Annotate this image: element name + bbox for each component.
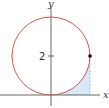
circle-diagram: y x 2 — [0, 0, 109, 108]
x-axis-label: x — [103, 89, 109, 100]
point-marker — [88, 54, 92, 58]
y-axis-label: y — [47, 0, 54, 9]
shaded-region — [51, 56, 90, 95]
y-tick-label: 2 — [39, 51, 45, 62]
